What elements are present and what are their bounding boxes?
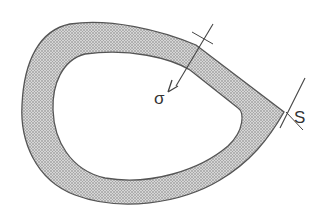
sigma-label: σ: [154, 89, 165, 108]
s-label: S: [294, 108, 305, 127]
loop-diagram: σ S: [0, 0, 331, 218]
shaded-band: [22, 22, 284, 204]
